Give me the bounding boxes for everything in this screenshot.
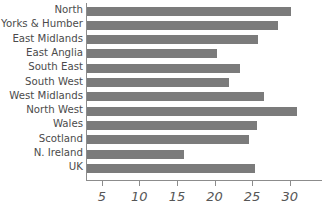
category-label: Scotland [0, 133, 83, 144]
bar [87, 164, 255, 173]
category-label: Yorks & Humber [0, 18, 83, 29]
bar [87, 92, 264, 101]
bar-row [86, 133, 322, 147]
x-tick-mark [139, 181, 140, 186]
x-tick-label: 30 [270, 189, 310, 205]
category-label: North [0, 4, 83, 15]
bar-row [86, 18, 322, 32]
bar-chart: NorthYorks & HumberEast MidlandsEast Ang… [0, 0, 322, 212]
bar-row [86, 104, 322, 118]
category-label: South East [0, 61, 83, 72]
category-label: N. Ireland [0, 147, 83, 158]
x-tick-mark [215, 181, 216, 186]
x-tick-label: 25 [232, 189, 272, 205]
category-label: West Midlands [0, 90, 83, 101]
category-label: East Anglia [0, 47, 83, 58]
bar [87, 121, 257, 130]
bar [87, 49, 217, 58]
x-tick-label: 15 [157, 189, 197, 205]
x-tick-mark [102, 181, 103, 186]
bar [87, 107, 297, 116]
x-tick-mark [290, 181, 291, 186]
category-label: East Midlands [0, 33, 83, 44]
bar [87, 78, 229, 87]
bar-row [86, 76, 322, 90]
bar-row [86, 33, 322, 47]
category-label: North West [0, 104, 83, 115]
bar [87, 35, 258, 44]
category-axis: NorthYorks & HumberEast MidlandsEast Ang… [0, 4, 83, 176]
bar [87, 7, 291, 16]
category-label: South West [0, 76, 83, 87]
bar-row [86, 161, 322, 175]
bar [87, 150, 184, 159]
x-tick-mark [177, 181, 178, 186]
bar-row [86, 4, 322, 18]
plot-area [86, 4, 322, 180]
x-tick-mark [252, 181, 253, 186]
bar [87, 135, 249, 144]
bar [87, 64, 240, 73]
bar-row [86, 61, 322, 75]
bar-row [86, 147, 322, 161]
x-tick-label: 20 [195, 189, 235, 205]
bar [87, 21, 278, 30]
x-tick-label: 10 [119, 189, 159, 205]
category-label: Wales [0, 118, 83, 129]
bar-row [86, 90, 322, 104]
category-label: UK [0, 161, 83, 172]
bar-row [86, 47, 322, 61]
x-tick-label: 5 [82, 189, 122, 205]
bar-row [86, 118, 322, 132]
y-axis-line [86, 3, 87, 180]
x-axis-line [86, 180, 322, 181]
chart-title [86, 0, 322, 1]
